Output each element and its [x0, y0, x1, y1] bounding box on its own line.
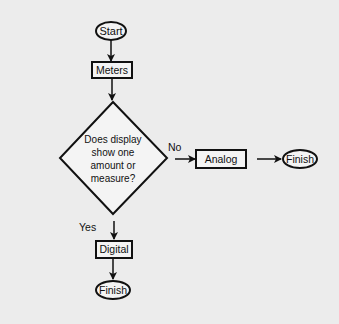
digital-node: Digital: [96, 241, 132, 258]
meters-label: Meters: [96, 64, 128, 76]
decision-line-1: Does display: [84, 134, 141, 145]
start-node: Start: [96, 22, 126, 40]
decision-line-4: measure?: [91, 173, 136, 184]
finish-right-label: Finish: [286, 153, 314, 165]
start-label: Start: [99, 25, 122, 37]
flowchart: Start Meters Does display show one amoun…: [0, 0, 339, 324]
decision-node: Does display show one amount or measure?: [60, 102, 167, 214]
finish-bottom-node: Finish: [96, 281, 130, 299]
decision-line-3: amount or: [90, 160, 136, 171]
analog-label: Analog: [205, 153, 238, 165]
edge-label-no: No: [168, 141, 182, 153]
edge-label-yes: Yes: [79, 221, 96, 233]
decision-line-2: show one: [92, 147, 135, 158]
analog-node: Analog: [196, 150, 246, 168]
meters-node: Meters: [92, 62, 132, 78]
finish-bottom-label: Finish: [99, 284, 127, 296]
finish-right-node: Finish: [283, 150, 317, 168]
digital-label: Digital: [99, 243, 128, 255]
